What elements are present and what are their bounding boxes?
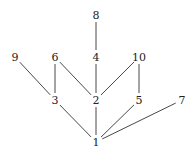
diagram-svg: 12345678910: [0, 0, 193, 159]
edge-1-5: [101, 105, 134, 137]
node-9: 9: [12, 51, 19, 64]
node-10: 10: [132, 51, 146, 64]
node-8: 8: [93, 9, 100, 22]
node-7: 7: [179, 94, 186, 107]
node-3: 3: [52, 94, 59, 107]
edge-2-6: [60, 62, 91, 95]
edge-3-9: [20, 62, 50, 95]
node-1: 1: [93, 136, 100, 149]
node-2: 2: [93, 94, 100, 107]
edges-group: [20, 22, 176, 139]
hasse-diagram: 12345678910: [0, 0, 193, 159]
node-5: 5: [136, 94, 143, 107]
nodes-group: 12345678910: [12, 9, 186, 149]
node-6: 6: [52, 51, 59, 64]
node-4: 4: [93, 51, 100, 64]
edge-2-10: [101, 62, 134, 95]
edge-1-7: [102, 103, 175, 139]
edge-1-3: [60, 105, 91, 137]
